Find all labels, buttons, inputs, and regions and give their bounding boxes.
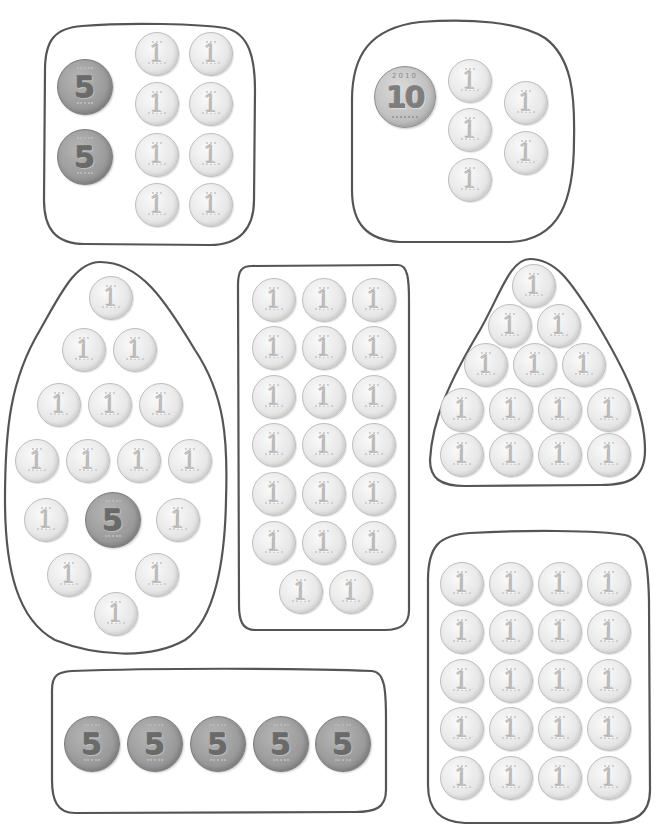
coin-value: 1 [51, 391, 66, 419]
coin-value: 1 [343, 578, 358, 606]
coin-1-icon: 1 [37, 383, 81, 427]
coin-value: 1 [366, 529, 381, 557]
coin-5-icon: 5 [57, 59, 113, 115]
coin-1-icon: 1 [302, 278, 346, 322]
coin-value: 1 [266, 383, 281, 411]
coin-value: 1 [503, 667, 518, 695]
coin-1-icon: 1 [504, 131, 548, 175]
coin-1-icon: 1 [489, 562, 533, 606]
coin-value: 1 [149, 90, 164, 118]
coin-value: 1 [266, 286, 281, 314]
coin-1-icon: 1 [440, 707, 484, 751]
coin-value: 1 [518, 139, 533, 167]
coin-value: 1 [131, 447, 146, 475]
coin-value: 1 [266, 529, 281, 557]
coin-value: 1 [503, 764, 518, 792]
coin-value: 1 [462, 116, 477, 144]
coin-value: 1 [316, 431, 331, 459]
coin-1-icon: 1 [302, 521, 346, 565]
coin-value: 1 [149, 561, 164, 589]
coin-1-icon: 1 [168, 439, 212, 483]
coin-value: 1 [576, 351, 591, 379]
coin-value: 1 [454, 570, 469, 598]
coin-value: 1 [153, 391, 168, 419]
coin-1-icon: 1 [562, 343, 606, 387]
coin-value: 5 [75, 70, 96, 105]
coin-1-icon: 1 [135, 183, 179, 227]
coin-value: 5 [271, 727, 292, 762]
coin-5-icon: 5 [57, 129, 113, 185]
coin-value: 5 [145, 727, 166, 762]
coin-value: 5 [75, 140, 96, 175]
coin-value: 1 [316, 286, 331, 314]
coin-value: 1 [203, 90, 218, 118]
coin-1-icon: 1 [440, 756, 484, 800]
coin-1-icon: 1 [489, 610, 533, 654]
coin-1-icon: 1 [587, 562, 631, 606]
coin-1-icon: 1 [448, 59, 492, 103]
coin-1-icon: 1 [464, 343, 508, 387]
coin-1-icon: 1 [88, 383, 132, 427]
coin-1-icon: 1 [189, 32, 233, 76]
coin-5-icon: 5 [315, 716, 371, 772]
coin-5-icon: 5 [253, 716, 309, 772]
coin-1-icon: 1 [279, 570, 323, 614]
coin-1-icon: 1 [538, 707, 582, 751]
coin-10-icon: 201010 [374, 66, 436, 128]
coin-value: 1 [527, 351, 542, 379]
coin-5-icon: 5 [190, 716, 246, 772]
coin-value: 1 [149, 191, 164, 219]
coin-1-icon: 1 [489, 659, 533, 703]
coin-1-icon: 1 [302, 375, 346, 419]
coin-1-icon: 1 [440, 433, 484, 477]
coin-value: 1 [601, 715, 616, 743]
coin-value: 1 [462, 166, 477, 194]
coin-1-icon: 1 [489, 388, 533, 432]
coin-1-icon: 1 [440, 388, 484, 432]
coin-1-icon: 1 [538, 756, 582, 800]
coin-value: 1 [503, 618, 518, 646]
coin-1-icon: 1 [189, 133, 233, 177]
coin-value: 1 [518, 89, 533, 117]
coin-1-icon: 1 [302, 472, 346, 516]
coin-value: 1 [366, 286, 381, 314]
coin-value: 1 [108, 600, 123, 628]
coin-1-icon: 1 [252, 521, 296, 565]
coin-1-icon: 1 [117, 439, 161, 483]
coin-value: 5 [103, 503, 124, 538]
coin-1-icon: 1 [440, 659, 484, 703]
coin-1-icon: 1 [135, 32, 179, 76]
coin-value: 5 [208, 727, 229, 762]
coin-1-icon: 1 [587, 707, 631, 751]
coin-value: 1 [76, 336, 91, 364]
coin-value: 1 [127, 336, 142, 364]
coin-value: 1 [102, 391, 117, 419]
coin-value: 1 [103, 284, 118, 312]
coin-value: 1 [203, 141, 218, 169]
coin-value: 1 [601, 667, 616, 695]
coin-1-icon: 1 [352, 326, 396, 370]
coin-value: 1 [316, 480, 331, 508]
coin-1-icon: 1 [302, 326, 346, 370]
coin-1-icon: 1 [504, 81, 548, 125]
coin-value: 1 [316, 334, 331, 362]
coin-1-icon: 1 [135, 133, 179, 177]
coin-value: 1 [266, 431, 281, 459]
coin-value: 1 [552, 715, 567, 743]
coin-value: 1 [29, 447, 44, 475]
coin-1-icon: 1 [489, 756, 533, 800]
coin-1-icon: 1 [489, 707, 533, 751]
coin-value: 1 [149, 141, 164, 169]
coin-1-icon: 1 [448, 158, 492, 202]
coin-value: 1 [601, 570, 616, 598]
coin-1-icon: 1 [189, 183, 233, 227]
coin-1-icon: 1 [440, 610, 484, 654]
coin-value: 1 [601, 764, 616, 792]
coin-1-icon: 1 [113, 328, 157, 372]
coin-1-icon: 1 [135, 553, 179, 597]
coin-value: 1 [526, 272, 541, 300]
coin-1-icon: 1 [252, 472, 296, 516]
coin-value: 5 [333, 727, 354, 762]
coin-value: 1 [316, 529, 331, 557]
coin-value: 1 [366, 480, 381, 508]
